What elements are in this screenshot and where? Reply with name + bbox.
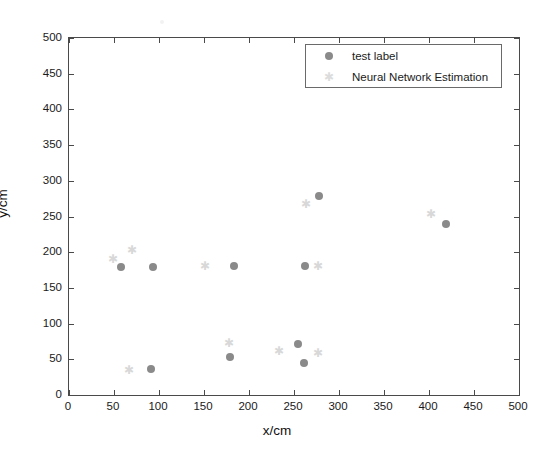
scan-speckle <box>160 20 164 24</box>
y-tick-mark <box>514 109 519 110</box>
x-tick-label: 400 <box>418 400 437 412</box>
x-tick-mark <box>519 390 520 395</box>
x-tick-label: 100 <box>148 400 167 412</box>
legend-marker-filled-circle-icon <box>306 52 352 60</box>
y-tick-label: 400 <box>43 102 62 114</box>
x-tick-mark <box>204 390 205 395</box>
x-tick-mark <box>474 38 475 43</box>
legend-label-test-label: test label <box>352 50 398 62</box>
data-point-test-label <box>300 359 308 367</box>
y-tick-mark <box>69 109 74 110</box>
data-point-estimation: ✱ <box>108 254 119 265</box>
x-axis-title: x/cm <box>0 423 554 438</box>
y-tick-label: 500 <box>43 31 62 43</box>
x-tick-mark <box>339 38 340 43</box>
data-point-estimation: ✱ <box>224 337 235 348</box>
y-tick-label: 250 <box>43 210 62 222</box>
y-tick-mark <box>69 324 74 325</box>
x-tick-mark <box>159 38 160 43</box>
x-tick-mark <box>474 390 475 395</box>
y-tick-mark <box>514 395 519 396</box>
data-point-test-label <box>301 262 309 270</box>
y-axis-title: y/cm <box>0 189 10 218</box>
data-point-estimation: ✱ <box>425 208 436 219</box>
y-tick-mark <box>514 74 519 75</box>
data-point-test-label <box>226 353 234 361</box>
figure-canvas: ✱✱✱✱✱✱✱✱✱✱ 05010015020025030035040045050… <box>0 0 554 458</box>
y-tick-label: 0 <box>56 388 62 400</box>
y-tick-mark <box>514 288 519 289</box>
y-tick-label: 150 <box>43 281 62 293</box>
plot-area: ✱✱✱✱✱✱✱✱✱✱ <box>68 37 520 396</box>
x-axis-tick-labels: 050100150200250300350400450500 <box>68 400 518 416</box>
x-tick-mark <box>249 390 250 395</box>
y-tick-label: 50 <box>49 352 62 364</box>
x-tick-mark <box>114 390 115 395</box>
x-tick-mark <box>339 390 340 395</box>
legend-entry-test-label: test label <box>306 45 501 66</box>
y-tick-mark <box>514 359 519 360</box>
x-tick-mark <box>159 390 160 395</box>
y-tick-mark <box>69 74 74 75</box>
x-tick-label: 50 <box>107 400 120 412</box>
y-tick-mark <box>514 181 519 182</box>
y-tick-mark <box>514 324 519 325</box>
data-point-estimation: ✱ <box>313 260 324 271</box>
x-tick-mark <box>429 390 430 395</box>
y-tick-mark <box>514 217 519 218</box>
x-tick-mark <box>114 38 115 43</box>
y-tick-label: 200 <box>43 245 62 257</box>
x-tick-label: 350 <box>373 400 392 412</box>
y-tick-label: 350 <box>43 138 62 150</box>
data-point-test-label <box>149 263 157 271</box>
x-tick-label: 150 <box>193 400 212 412</box>
data-point-test-label <box>117 263 125 271</box>
legend: test label ✱ Neural Network Estimation <box>305 44 502 88</box>
x-tick-mark <box>204 38 205 43</box>
x-tick-label: 300 <box>328 400 347 412</box>
data-point-test-label <box>294 340 302 348</box>
data-point-test-label <box>230 262 238 270</box>
data-point-test-label <box>147 365 155 373</box>
data-point-estimation: ✱ <box>124 365 135 376</box>
x-tick-mark <box>519 38 520 43</box>
y-axis-tick-labels: 050100150200250300350400450500 <box>24 37 62 394</box>
x-tick-label: 450 <box>463 400 482 412</box>
data-point-estimation: ✱ <box>273 345 284 356</box>
x-tick-mark <box>429 38 430 43</box>
y-tick-mark <box>69 252 74 253</box>
x-tick-mark <box>294 38 295 43</box>
x-tick-mark <box>249 38 250 43</box>
y-tick-mark <box>69 395 74 396</box>
x-tick-mark <box>384 38 385 43</box>
data-point-estimation: ✱ <box>313 347 324 358</box>
y-tick-mark <box>69 217 74 218</box>
x-tick-label: 200 <box>238 400 257 412</box>
data-point-estimation: ✱ <box>300 199 311 210</box>
y-tick-mark <box>514 145 519 146</box>
legend-entry-neural-network-estimation: ✱ Neural Network Estimation <box>306 66 501 87</box>
y-tick-mark <box>69 145 74 146</box>
data-point-test-label <box>315 192 323 200</box>
x-tick-mark <box>69 38 70 43</box>
y-tick-mark <box>69 359 74 360</box>
x-tick-mark <box>69 390 70 395</box>
y-tick-mark <box>69 288 74 289</box>
legend-label-neural-network-estimation: Neural Network Estimation <box>352 71 488 83</box>
x-tick-label: 500 <box>508 400 527 412</box>
y-tick-mark <box>514 252 519 253</box>
data-point-test-label <box>442 220 450 228</box>
x-tick-label: 250 <box>283 400 302 412</box>
y-tick-label: 100 <box>43 317 62 329</box>
data-point-estimation: ✱ <box>127 245 138 256</box>
data-point-estimation: ✱ <box>199 261 210 272</box>
y-tick-mark <box>69 181 74 182</box>
x-tick-mark <box>294 390 295 395</box>
y-tick-label: 300 <box>43 174 62 186</box>
x-tick-label: 0 <box>65 400 71 412</box>
legend-marker-star-icon: ✱ <box>306 72 352 82</box>
x-tick-mark <box>384 390 385 395</box>
y-tick-label: 450 <box>43 67 62 79</box>
